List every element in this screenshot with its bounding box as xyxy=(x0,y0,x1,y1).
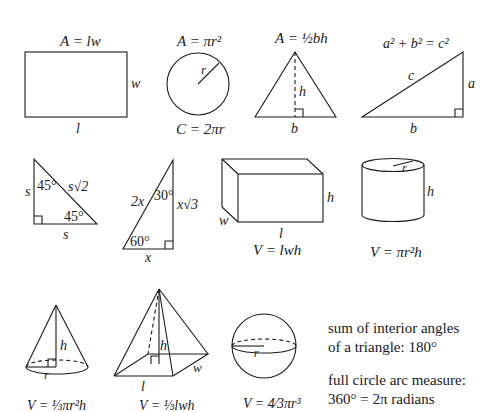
triangle-height-label: h xyxy=(299,84,306,99)
cylinder-height-label: h xyxy=(427,184,434,199)
hypotenuse-label: c xyxy=(408,68,415,83)
leg-b-label: b xyxy=(410,121,417,136)
cylinder-bottom xyxy=(362,215,424,222)
rectangle-figure: A = lw w l xyxy=(25,33,141,136)
circle-circumference-formula: C = 2πr xyxy=(176,121,225,137)
sphere-figure: r V = 4⁄3πr³ xyxy=(232,314,302,411)
pyramid-height-label: h xyxy=(160,338,167,353)
sphere-formula: V = 4⁄3πr³ xyxy=(243,396,302,411)
rectangle-length-label: l xyxy=(76,121,80,136)
pyramid-formula: V = ⅓lwh xyxy=(139,398,194,412)
short-leg-label: x xyxy=(144,250,152,265)
prism-front-face xyxy=(238,174,323,222)
cone-figure: h r V = ⅓πr²h xyxy=(26,305,88,412)
note-line: of a triangle: 180° xyxy=(328,338,459,357)
angle-60-label: 60° xyxy=(130,234,150,249)
triangle-base-label: b xyxy=(291,121,298,136)
pyramid-width-label: w xyxy=(193,360,202,375)
note-line: sum of interior angles xyxy=(328,319,459,338)
rect-prism-figure: h w l V = lwh xyxy=(219,159,334,258)
cylinder-radius-label: r xyxy=(402,161,407,175)
cone-base-front xyxy=(26,367,88,374)
leg-a-label: a xyxy=(468,76,475,91)
cone-radius-label: r xyxy=(44,368,49,382)
cone-left-side xyxy=(26,305,56,367)
prism-height-label: h xyxy=(327,190,334,205)
right-triangle-figure: a² + b² = c² c a b xyxy=(362,36,475,136)
right-angle-mark xyxy=(455,109,463,117)
hyp-2x-label: 2x xyxy=(131,194,145,209)
cone-right-side xyxy=(56,305,88,367)
triangle-angle-sum-note: sum of interior angles of a triangle: 18… xyxy=(328,319,459,357)
hyp-s-root2-label: s√2 xyxy=(68,179,88,194)
pythagorean-formula: a² + b² = c² xyxy=(383,36,450,51)
angle-45-bottom: 45° xyxy=(64,209,84,224)
pyramid-edge-front-right xyxy=(159,289,173,376)
rectangle-shape xyxy=(25,52,127,117)
circle-radius-label: r xyxy=(201,62,207,77)
angle-45-top: 45° xyxy=(37,178,57,193)
cone-formula: V = ⅓πr²h xyxy=(27,398,86,412)
special-triangle-45: s 45° s√2 45° s xyxy=(25,159,97,242)
prism-length-label: l xyxy=(279,226,283,241)
long-leg-label: x√3 xyxy=(176,197,198,212)
circle-arc-measure-note: full circle arc measure: 360° = 2π radia… xyxy=(328,371,466,409)
prism-formula: V = lwh xyxy=(253,242,301,258)
triangle-figure: A = ½bh h b xyxy=(255,30,336,136)
circle-area-formula: A = πr² xyxy=(176,33,222,49)
prism-top-edges xyxy=(222,159,323,174)
pyramid-figure: h w l V = ⅓lwh xyxy=(114,289,208,412)
cylinder-top xyxy=(362,159,424,172)
prism-top-left-edge xyxy=(222,159,238,174)
right-triangle-shape xyxy=(362,52,463,117)
rectangle-width-label: w xyxy=(131,76,141,91)
sphere-radius-label: r xyxy=(254,346,259,360)
rectangle-formula: A = lw xyxy=(59,33,101,49)
right-angle-mark xyxy=(165,241,173,249)
right-angle-mark xyxy=(34,216,42,224)
note-line: 360° = 2π radians xyxy=(328,390,466,409)
right-angle-mark xyxy=(151,356,159,364)
cone-height-label: h xyxy=(60,338,67,353)
triangle-formula: A = ½bh xyxy=(274,30,328,46)
cone-base-back xyxy=(26,360,88,367)
note-line: full circle arc measure: xyxy=(328,371,466,390)
cylinder-formula: V = πr²h xyxy=(370,244,422,260)
pyramid-length-label: l xyxy=(141,379,145,394)
sphere-equator-back xyxy=(232,339,296,346)
leg-s-bottom-label: s xyxy=(63,227,69,242)
circle-figure: A = πr² r C = 2πr xyxy=(167,33,229,137)
prism-width-label: w xyxy=(219,213,229,228)
angle-30-label: 30° xyxy=(154,188,174,203)
right-angle-mark xyxy=(295,109,303,117)
cylinder-figure: r h V = πr²h xyxy=(362,159,434,261)
pyramid-edge-front-left xyxy=(114,289,159,376)
sphere-equator-front xyxy=(232,346,296,353)
leg-s-label: s xyxy=(25,184,31,199)
special-triangle-30-60: 2x 30° x√3 60° x xyxy=(123,160,198,265)
